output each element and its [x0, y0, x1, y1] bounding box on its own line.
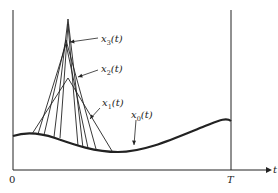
- curve-x2: [44, 40, 96, 149]
- label-x2: x2(t): [101, 63, 123, 77]
- T-label: T: [227, 174, 235, 185]
- diagram-canvas: x3(t) x2(t) x1(t) x0(t) 0 T t: [0, 0, 278, 193]
- origin-label: 0: [9, 174, 15, 185]
- leader-x2-arrow-icon: [78, 74, 83, 78]
- curve-x0: [13, 119, 231, 152]
- curve-x3: [54, 19, 83, 148]
- leader-x0-arrow-icon: [132, 141, 136, 146]
- t-axis-arrow-icon: [266, 167, 272, 173]
- label-x1: x1(t): [102, 97, 124, 111]
- label-x3: x3(t): [101, 33, 123, 47]
- label-x0: x0(t): [131, 109, 153, 123]
- t-axis-label: t: [273, 164, 278, 175]
